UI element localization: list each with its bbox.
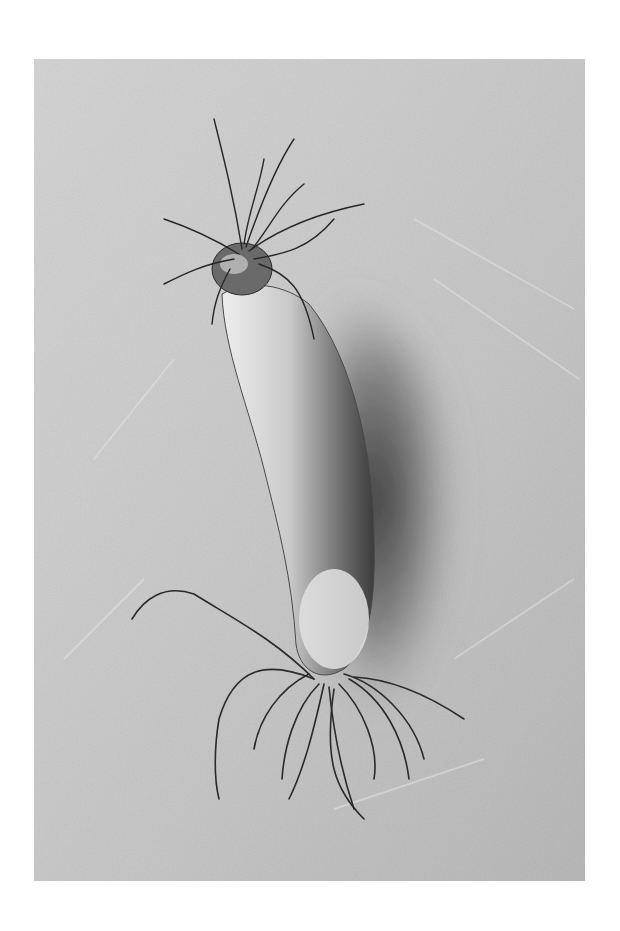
- radish-photo: Black and white photograph of a single r…: [34, 59, 585, 881]
- photo-canvas: [34, 59, 585, 881]
